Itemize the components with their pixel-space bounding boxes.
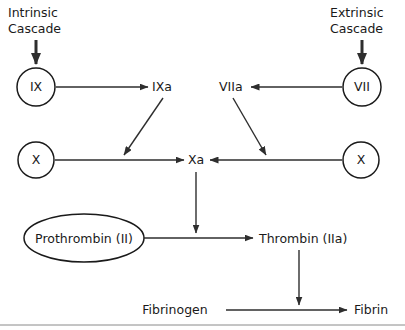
coagulation-cascade-figure: Intrinsic Cascade Extrinsic Cascade IX I… — [0, 0, 405, 330]
factor-x-left-label: X — [32, 152, 41, 167]
cascade-diagram-canvas: Intrinsic Cascade Extrinsic Cascade IX I… — [0, 0, 405, 330]
extrinsic-cascade-heading-line1: Extrinsic — [330, 5, 384, 20]
factor-x-right-label: X — [357, 152, 366, 167]
intrinsic-cascade-heading-line1: Intrinsic — [8, 5, 58, 20]
fibrinogen-label: Fibrinogen — [142, 302, 207, 317]
ixa-to-xa-diagonal-arrow — [124, 98, 163, 155]
factor-viia-label: VIIa — [219, 79, 243, 94]
factor-ixa-label: IXa — [152, 79, 172, 94]
prothrombin-label: Prothrombin (II) — [35, 231, 133, 246]
factor-ix-label: IX — [30, 79, 43, 94]
viia-to-xa-diagonal-arrow — [233, 98, 266, 155]
fibrin-label: Fibrin — [354, 302, 388, 317]
extrinsic-cascade-heading-line2: Cascade — [330, 21, 383, 36]
intrinsic-cascade-heading-line2: Cascade — [8, 21, 61, 36]
factor-vii-label: VII — [354, 79, 370, 94]
factor-xa-label: Xa — [188, 152, 204, 167]
thrombin-label: Thrombin (IIa) — [258, 231, 347, 246]
